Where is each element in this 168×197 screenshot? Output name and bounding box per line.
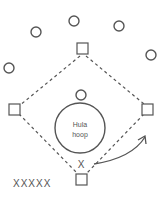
cone-bottom bbox=[76, 174, 87, 185]
cone-top bbox=[77, 43, 88, 54]
player-x: X bbox=[78, 159, 85, 170]
hula-hoop bbox=[55, 103, 105, 153]
player-circle bbox=[146, 50, 156, 60]
player-circle bbox=[76, 90, 86, 100]
player-circle bbox=[69, 16, 79, 26]
player-circle bbox=[4, 63, 14, 73]
outer-players bbox=[4, 16, 156, 100]
drill-diagram: Hula hoop X XXXXX bbox=[0, 0, 168, 197]
player-circle bbox=[31, 27, 41, 37]
hoop-label-line2: hoop bbox=[72, 131, 88, 139]
player-circle bbox=[114, 21, 124, 31]
player-queue: XXXXX bbox=[13, 178, 51, 189]
cone-left bbox=[9, 104, 20, 115]
cone-right bbox=[142, 104, 153, 115]
hoop-label-line1: Hula bbox=[73, 121, 88, 128]
